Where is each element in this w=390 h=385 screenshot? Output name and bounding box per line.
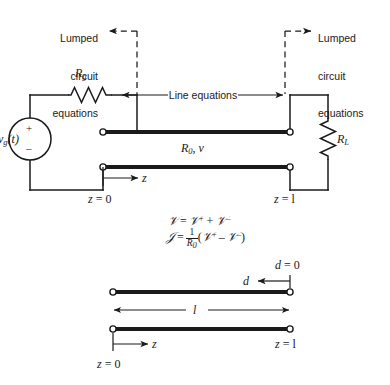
main-z-end-label: z = l [274,192,295,207]
bottom-d-zero-label: d = 0 [275,258,300,273]
bottom-z-axis-label: z [152,337,157,352]
main-z-axis-label: z [142,171,147,186]
source-polarity-plus: + [26,122,32,134]
main-z-zero-label: z = 0 [88,192,111,207]
main-z-axis-arrow [103,167,138,186]
eq2-term2: 𝒱 [227,229,237,244]
eq2-lhs: 𝒥 [166,229,175,244]
eq2-term1-superscript: + [212,229,217,239]
source-polarity-minus: – [26,142,32,154]
eq1-plus: + [204,214,217,228]
load-resistor-label: RL [337,132,349,147]
series-resistor-label: Rg [75,66,87,81]
right-callout-line-2: circuit [318,70,388,83]
line-equations-label: Line equations [155,89,251,102]
eq1-equals: = [178,214,189,228]
bottom-z-zero-eq: = 0 [102,357,121,371]
load-resistor-subscript: L [344,137,349,147]
eq1-term2: 𝒱 [216,213,226,228]
eq2-fraction-denominator: R0 [186,238,198,250]
eq1-lhs: 𝒱 [168,213,178,228]
transmission-line-figure: Lumped circuit equations Lumped circuit … [0,0,390,385]
bottom-d-zero-eq: = 0 [281,258,300,272]
bottom-z-zero-label: z = 0 [97,357,120,372]
left-callout-line-1: Lumped [14,32,98,45]
eq2-minus: – [217,230,227,244]
d-axis-arrow [258,275,290,288]
eq2-close-paren: ) [241,230,245,244]
source-label: vg(t) [0,132,19,147]
voltage-wave-equation: 𝒱=𝒱++𝒱– [168,213,231,229]
left-lumped-callout-arrow [109,31,137,94]
eq2-den-subscript: 0 [193,240,197,250]
bottom-z-axis-arrow [113,333,148,351]
eq1-term1: 𝒱 [189,213,199,228]
series-resistor-subscript: g [82,71,86,81]
bottom-d-axis-label: d [243,274,249,289]
bottom-length-label: l [193,303,196,318]
eq1-term1-superscript: + [199,213,204,223]
eq2-term1: 𝒱 [202,229,212,244]
bottom-z-end-eq: = l [280,337,296,351]
eq2-equals: = [175,230,186,244]
eq2-fraction-numerator: 1 [186,228,198,238]
right-lumped-callout-arrow [285,31,311,94]
left-callout-line-3: equations [14,107,98,120]
bottom-z-end-label: z = l [275,337,296,352]
eq1-term2-superscript: – [226,213,230,223]
current-wave-equation: 𝒥= 1 R0 (𝒱+–𝒱–) [166,228,245,250]
right-callout-line-3: equations [318,107,388,120]
right-callout-line-1: Lumped [318,32,388,45]
main-z-zero-eq: = 0 [93,192,112,206]
source-argument: (t) [8,132,19,146]
line-parameters-label: R0, v [181,141,204,156]
main-z-end-eq: = l [279,192,295,206]
line-velocity-symbol: v [199,141,204,155]
right-lumped-callout-label: Lumped circuit equations [318,7,388,145]
eq2-fraction: 1 R0 [186,228,198,250]
